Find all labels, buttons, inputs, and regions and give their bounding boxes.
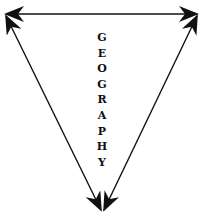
letter-y: Y <box>98 155 106 171</box>
left-arrow <box>6 16 101 210</box>
letter-e: E <box>98 46 106 62</box>
letter-h: H <box>97 139 107 155</box>
letter-g1: G <box>97 30 106 46</box>
letter-o: O <box>97 61 107 77</box>
letter-g2: G <box>97 77 106 93</box>
letter-p: P <box>98 124 106 140</box>
letter-r: R <box>97 92 106 108</box>
right-arrow <box>104 16 197 210</box>
geography-label: G E O G R A P H Y <box>92 30 112 170</box>
letter-a: A <box>98 108 107 124</box>
